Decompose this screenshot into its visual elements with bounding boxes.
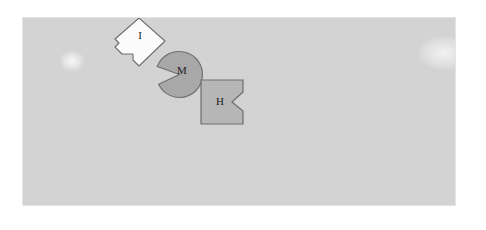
- shape-i-label: I: [138, 29, 142, 41]
- shape-h-label: H: [216, 95, 224, 107]
- shape-canvas: I M H: [22, 17, 456, 206]
- faint-light-smudge-right: [418, 36, 456, 70]
- shape-m-label: M: [177, 64, 187, 76]
- shape-h-square[interactable]: H: [199, 78, 251, 130]
- faint-light-smudge-left: [59, 50, 85, 72]
- scene-root: I M H: [0, 0, 486, 230]
